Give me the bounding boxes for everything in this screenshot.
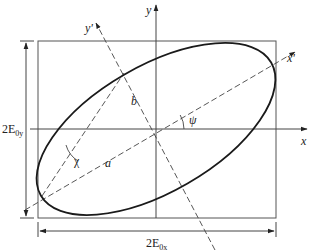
x-axis-label: x	[300, 134, 307, 148]
y-axis-label: y	[145, 3, 152, 17]
semi-major-label: a	[105, 156, 111, 170]
width-dim-label: 2E0x	[146, 236, 167, 252]
semi-minor-label: b	[131, 94, 137, 108]
chi-label: χ	[73, 154, 80, 168]
polarization-ellipse-diagram: y x x' y' b a ψ χ 2E0y 2E0x	[0, 0, 313, 252]
psi-label: ψ	[189, 113, 197, 127]
x-prime-label: x'	[286, 51, 295, 65]
x-prime-axis	[25, 52, 295, 210]
y-prime-label: y'	[84, 21, 93, 35]
height-dim-label: 2E0y	[2, 122, 23, 138]
